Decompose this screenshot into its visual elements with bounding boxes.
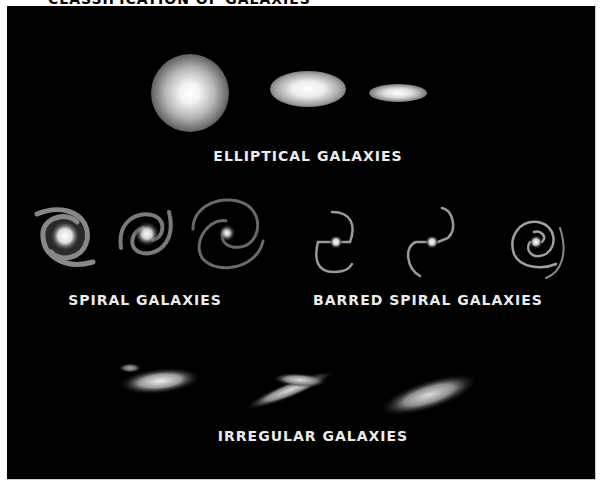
irregular-galaxy-2	[240, 368, 340, 418]
elliptical-galaxy-e7	[369, 84, 427, 102]
irregular-galaxy-1	[108, 354, 208, 404]
label-elliptical-galaxies: ELLIPTICAL GALAXIES	[213, 148, 402, 164]
barred-spiral-galaxy-sba	[301, 202, 371, 282]
spiral-galaxy-sa	[25, 196, 105, 276]
irregular-galaxy-3	[375, 368, 485, 418]
galaxy-classification-panel: ELLIPTICAL GALAXIES SPIRAL GALAXIES	[7, 6, 596, 480]
spiral-galaxy-sb	[107, 194, 187, 274]
spiral-galaxy-sc	[182, 188, 272, 278]
label-barred-spiral-galaxies: BARRED SPIRAL GALAXIES	[313, 292, 543, 308]
elliptical-galaxy-e0	[151, 54, 229, 132]
label-irregular-galaxies: IRREGULAR GALAXIES	[218, 428, 408, 444]
label-spiral-galaxies: SPIRAL GALAXIES	[68, 292, 222, 308]
barred-spiral-galaxy-sbc	[496, 202, 576, 282]
barred-spiral-galaxy-sbb	[397, 202, 467, 282]
elliptical-galaxy-e3	[270, 71, 346, 107]
